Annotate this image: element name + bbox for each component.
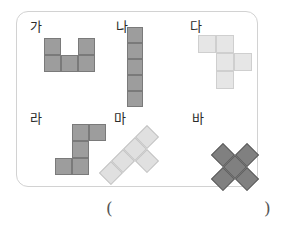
close-paren: ) xyxy=(264,200,271,217)
polyomino-cell xyxy=(89,124,106,141)
polyomino-cell xyxy=(72,124,89,141)
polyomino-cell xyxy=(127,75,143,91)
polyomino-cell xyxy=(216,35,234,53)
polyomino-cell xyxy=(127,43,143,59)
shape-label-ma: 마 xyxy=(114,112,126,125)
polyomino-cell xyxy=(61,55,78,72)
open-paren: ( xyxy=(106,200,113,217)
polyomino-cell xyxy=(198,35,216,53)
polyomino-cell xyxy=(127,27,143,43)
polyomino-cell xyxy=(78,55,95,72)
polyomino-cell xyxy=(234,53,252,71)
shape-label-ba: 바 xyxy=(192,112,204,125)
polyomino-cell xyxy=(127,59,143,75)
polyomino-cell xyxy=(216,53,234,71)
polyomino-cell xyxy=(44,38,61,55)
answer-row: ( ) xyxy=(16,196,274,224)
polyomino-cell xyxy=(72,158,89,175)
polyomino-cell xyxy=(216,71,234,89)
polyomino-cell xyxy=(72,141,89,158)
shape-label-ga: 가 xyxy=(30,20,42,33)
polyomino-cell xyxy=(44,55,61,72)
polyomino-cell xyxy=(78,38,95,55)
shape-label-ra: 라 xyxy=(30,112,42,125)
shape-label-da: 다 xyxy=(190,20,202,33)
worksheet-canvas: 가나다라마바 ( ) xyxy=(0,0,290,237)
polyomino-cell xyxy=(55,158,72,175)
polyomino-cell xyxy=(127,91,143,107)
